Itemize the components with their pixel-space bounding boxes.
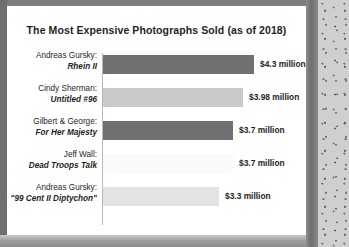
page-edge-bottom xyxy=(0,235,349,247)
chart-title: The Most Expensive Photographs Sold (as … xyxy=(7,24,306,36)
bar-value-label: $3.3 million xyxy=(225,191,271,201)
page-texture-strip xyxy=(318,0,349,247)
bar xyxy=(103,88,243,107)
artist-name: Gilbert & George: xyxy=(7,117,97,128)
bar-value-label: $3.98 million xyxy=(249,92,299,102)
page-gutter-shadow xyxy=(306,0,318,247)
category-label: Andreas Gursky:"99 Cent II Diptychon" xyxy=(7,183,97,204)
artwork-title: Dead Troops Talk xyxy=(7,161,97,172)
bar-row: Cindy Sherman:Untitled #96$3.98 million xyxy=(7,84,306,117)
artwork-title: For Her Majesty xyxy=(7,128,97,139)
category-label: Cindy Sherman:Untitled #96 xyxy=(7,84,97,105)
bar xyxy=(103,187,219,206)
category-label: Andreas Gursky:Rhein II xyxy=(7,51,97,72)
bar-row: Andreas Gursky:Rhein II$4.3 million xyxy=(7,51,306,84)
page-edge-left xyxy=(0,0,7,247)
artist-name: Andreas Gursky: xyxy=(7,183,97,194)
category-label: Gilbert & George:For Her Majesty xyxy=(7,117,97,138)
plot-area: Andreas Gursky:Rhein II$4.3 millionCindy… xyxy=(7,51,306,229)
chart-page: The Most Expensive Photographs Sold (as … xyxy=(7,6,306,235)
artist-name: Jeff Wall: xyxy=(7,150,97,161)
artwork-title: Rhein II xyxy=(7,62,97,73)
chart-screenshot: The Most Expensive Photographs Sold (as … xyxy=(0,0,349,247)
artwork-title: Untitled #96 xyxy=(7,95,97,106)
bar xyxy=(103,154,233,173)
bar-row: Andreas Gursky:"99 Cent II Diptychon"$3.… xyxy=(7,183,306,216)
bar-value-label: $4.3 million xyxy=(260,59,306,69)
bar-value-label: $3.7 million xyxy=(239,158,285,168)
artist-name: Andreas Gursky: xyxy=(7,51,97,62)
artist-name: Cindy Sherman: xyxy=(7,84,97,95)
category-label: Jeff Wall:Dead Troops Talk xyxy=(7,150,97,171)
bar xyxy=(103,121,233,140)
bar-row: Jeff Wall:Dead Troops Talk$3.7 million xyxy=(7,150,306,183)
bar xyxy=(103,55,254,74)
bar-row: Gilbert & George:For Her Majesty$3.7 mil… xyxy=(7,117,306,150)
artwork-title: "99 Cent II Diptychon" xyxy=(7,194,97,205)
bar-value-label: $3.7 million xyxy=(239,125,285,135)
